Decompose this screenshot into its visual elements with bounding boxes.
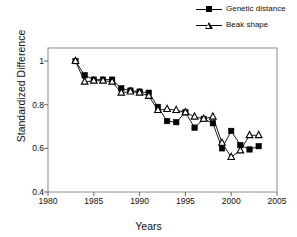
marker-open-triangle: [173, 106, 180, 112]
x-axis-tick-label: 1990: [130, 196, 149, 206]
x-axis-tick-label: 1995: [176, 196, 195, 206]
marker-open-triangle: [81, 78, 88, 84]
marker-filled-square: [219, 146, 224, 151]
marker-open-triangle: [210, 113, 217, 119]
y-axis-title: Standardized Difference: [15, 11, 27, 161]
marker-open-triangle: [164, 105, 171, 111]
x-axis-title: Years: [0, 220, 297, 232]
marker-filled-square: [174, 119, 179, 124]
x-axis-tick-label: 1985: [84, 196, 103, 206]
x-axis-tick-label: 2005: [268, 196, 287, 206]
x-axis-tick-label: 2000: [222, 196, 241, 206]
x-axis-tick-label: 1980: [39, 196, 58, 206]
plot-frame: [48, 48, 277, 192]
marker-filled-square: [229, 128, 234, 133]
marker-filled-square: [256, 143, 261, 148]
marker-filled-square: [247, 147, 252, 152]
marker-filled-square: [210, 121, 215, 126]
marker-open-triangle: [246, 131, 253, 137]
marker-filled-square: [192, 125, 197, 130]
chart-figure: Genetic distance Beak shape 0.40.60.81 1…: [0, 0, 297, 237]
marker-open-triangle: [255, 131, 262, 137]
x-axis-tick-labels: 198019851990199520002005: [0, 196, 297, 210]
marker-filled-square: [164, 118, 169, 123]
